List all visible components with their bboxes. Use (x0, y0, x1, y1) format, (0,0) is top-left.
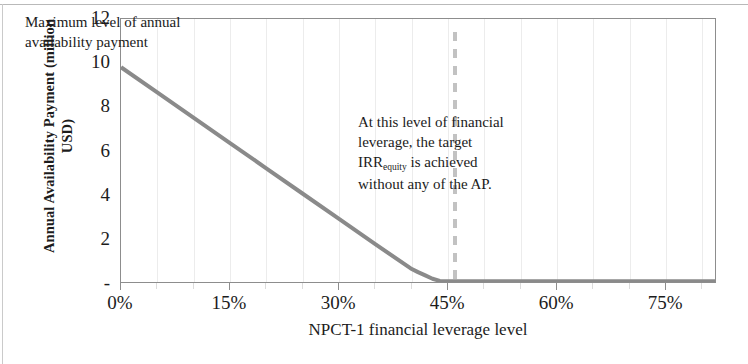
x-axis-tick-label: 75% (630, 292, 700, 314)
x-axis-minor-tick (701, 283, 702, 289)
x-axis-minor-tick (193, 283, 194, 289)
annotation-irr-subscript: equity (383, 162, 407, 172)
y-axis-tick-label: 8 (68, 96, 110, 115)
x-axis-minor-tick (629, 283, 630, 289)
y-axis-tick-label: 2 (68, 229, 110, 248)
annotation-irr-text-before: At this level of financial leverage, the… (358, 114, 504, 150)
x-axis-minor-tick (520, 283, 521, 289)
y-axis-tick-label: 10 (68, 52, 110, 71)
x-axis-major-tick (665, 283, 666, 290)
page-left-rule (2, 4, 3, 364)
chart-figure: Annual Availability Payment (million USD… (0, 0, 748, 364)
x-axis-tick-label: 0% (85, 292, 155, 314)
x-axis-minor-tick (483, 283, 484, 289)
annotation-irr-label: IRR (358, 154, 383, 170)
x-axis-minor-tick (302, 283, 303, 289)
x-axis-minor-tick (374, 283, 375, 289)
annotation-target-irr-equity: At this level of financial leverage, the… (358, 112, 568, 194)
x-axis-major-tick (120, 283, 121, 290)
x-axis-major-tick (229, 283, 230, 290)
x-axis-major-tick (447, 283, 448, 290)
y-axis-tick-label: 4 (68, 185, 110, 204)
x-axis-major-tick (556, 283, 557, 290)
x-axis-minor-tick (411, 283, 412, 289)
y-axis-tick-label: 6 (68, 141, 110, 160)
x-axis-tick-label: 45% (412, 292, 482, 314)
x-axis-minor-tick (156, 283, 157, 289)
x-axis-title: NPCT-1 financial leverage level (120, 320, 716, 340)
x-axis-tick-label: 15% (194, 292, 264, 314)
x-axis-tick-label: 30% (303, 292, 373, 314)
x-axis-major-tick (338, 283, 339, 290)
y-axis-tick-label: - (68, 273, 110, 292)
annotation-maximum-level: Maximum level of annual availability pay… (25, 12, 275, 52)
x-axis-tick-label: 60% (521, 292, 591, 314)
x-axis-minor-tick (265, 283, 266, 289)
x-axis-minor-tick (592, 283, 593, 289)
page-top-rule (0, 4, 748, 5)
